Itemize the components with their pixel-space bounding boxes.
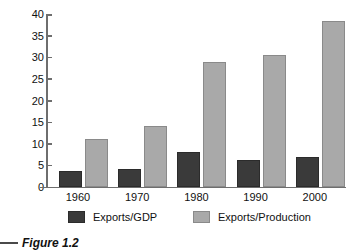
y-axis-tick-mark bbox=[46, 100, 52, 102]
bar-2000-exports-gdp bbox=[296, 157, 319, 187]
y-axis-tick-label: 5 bbox=[22, 160, 44, 171]
y-axis-tick-mark bbox=[46, 122, 52, 124]
y-axis-tick-label: 40 bbox=[22, 9, 44, 20]
y-axis-tick-labels: 0510152025303540 bbox=[22, 8, 44, 194]
x-axis-tick-label: 1990 bbox=[227, 190, 285, 204]
bar-1960-exports-gdp bbox=[59, 171, 82, 187]
legend-item: Exports/GDP bbox=[68, 208, 157, 226]
bar-group bbox=[56, 14, 115, 187]
y-axis-tick-label: 35 bbox=[22, 31, 44, 42]
y-axis-tick-label: 20 bbox=[22, 96, 44, 107]
y-axis-tick-mark bbox=[46, 78, 52, 80]
figure-caption: Figure 1.2 bbox=[0, 234, 356, 252]
bar-group bbox=[234, 14, 293, 187]
bar-1980-exports-production bbox=[203, 62, 226, 187]
y-axis-tick-mark bbox=[46, 187, 52, 189]
bar-1960-exports-production bbox=[85, 139, 108, 187]
y-axis-tick-label: 30 bbox=[22, 52, 44, 63]
x-axis-tick-label: 1970 bbox=[108, 190, 166, 204]
bar-group bbox=[174, 14, 233, 187]
legend-label: Exports/Production bbox=[218, 211, 311, 224]
bar-1990-exports-production bbox=[263, 55, 286, 187]
x-axis-tick-labels: 19601970198019902000 bbox=[48, 190, 344, 206]
bar-group bbox=[115, 14, 174, 187]
x-axis-tick-label: 1980 bbox=[167, 190, 225, 204]
y-axis-tick-label: 10 bbox=[22, 139, 44, 150]
x-axis-tick-label: 1960 bbox=[49, 190, 107, 204]
bar-1990-exports-gdp bbox=[237, 160, 260, 187]
bar-2000-exports-production bbox=[322, 21, 345, 188]
bars-area bbox=[48, 14, 344, 187]
light-swatch bbox=[193, 211, 210, 223]
bar-1980-exports-gdp bbox=[177, 152, 200, 187]
bar-1970-exports-production bbox=[144, 126, 167, 187]
y-axis-tick-mark bbox=[46, 57, 52, 59]
y-axis-tick-label: 25 bbox=[22, 74, 44, 85]
y-axis-tick-mark bbox=[46, 143, 52, 145]
bar-1970-exports-gdp bbox=[118, 169, 141, 187]
dark-swatch bbox=[68, 211, 85, 223]
legend-item: Exports/Production bbox=[193, 208, 311, 226]
y-axis-tick-label: 15 bbox=[22, 117, 44, 128]
legend-label: Exports/GDP bbox=[93, 211, 157, 224]
x-axis-tick-label: 2000 bbox=[286, 190, 344, 204]
chart-legend: Exports/GDPExports/Production bbox=[0, 208, 356, 230]
bar-group bbox=[293, 14, 352, 187]
caption-rule bbox=[0, 242, 18, 244]
figure-container: 0510152025303540 19601970198019902000 Ex… bbox=[0, 0, 356, 252]
caption-label: Figure 1.2 bbox=[22, 236, 79, 250]
y-axis-tick-mark bbox=[46, 165, 52, 167]
chart-plot-area: 0510152025303540 19601970198019902000 bbox=[0, 0, 356, 205]
y-axis-tick-mark bbox=[46, 35, 52, 37]
